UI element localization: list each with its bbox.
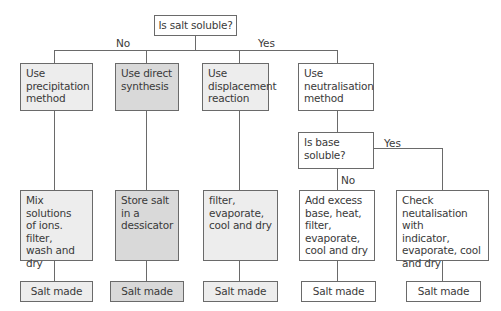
result-label: Salt made xyxy=(23,285,90,298)
no-branch-label: No xyxy=(116,37,130,49)
soluble-base-steps-box: Check neutalisation with indicator, evap… xyxy=(396,190,489,261)
result-label: Salt made xyxy=(409,285,478,298)
connector xyxy=(146,50,147,63)
connector xyxy=(195,36,196,50)
connector xyxy=(239,50,240,63)
connector xyxy=(337,261,338,281)
salt-made-box: Salt made xyxy=(110,281,184,302)
direct-synthesis-steps-box: Store salt in a dessicator xyxy=(115,190,179,261)
method-label: Use neutralisation method xyxy=(304,67,368,105)
result-label: Salt made xyxy=(206,285,275,298)
yes-branch-label: Yes xyxy=(258,37,275,49)
connector xyxy=(442,148,443,190)
steps-label: Mix solutions of ions. filter, wash and … xyxy=(26,194,87,269)
salt-made-box: Salt made xyxy=(406,281,481,302)
connector xyxy=(337,111,338,132)
no-branch-label: No xyxy=(341,174,355,186)
steps-label: Check neutalisation with indicator, evap… xyxy=(402,194,483,269)
connector xyxy=(337,50,338,63)
connector xyxy=(239,111,240,190)
precipitation-steps-box: Mix solutions of ions. filter, wash and … xyxy=(20,190,93,261)
decision-label: Is base soluble? xyxy=(304,136,368,161)
precipitation-method-box: Use precipitation method xyxy=(20,63,93,111)
neutralisation-method-box: Use neutralisation method xyxy=(298,63,374,111)
connector xyxy=(54,50,338,51)
base-soluble-decision-box: Is base soluble? xyxy=(298,132,374,169)
direct-synthesis-method-box: Use direct synthesis xyxy=(115,63,179,111)
connector xyxy=(146,111,147,190)
displacement-method-box: Use displacement reaction xyxy=(202,63,269,111)
result-label: Salt made xyxy=(113,285,181,298)
root-question: Is salt soluble? xyxy=(157,19,234,32)
salt-made-box: Salt made xyxy=(203,281,278,302)
method-label: Use precipitation method xyxy=(26,67,87,105)
insoluble-base-steps-box: Add excess base, heat, filter, evaporate… xyxy=(299,190,375,261)
salt-made-box: Salt made xyxy=(301,281,376,302)
displacement-steps-box: filter, evaporate, cool and dry xyxy=(203,190,278,261)
method-label: Use displacement reaction xyxy=(208,67,263,105)
result-label: Salt made xyxy=(304,285,373,298)
steps-label: Add excess base, heat, filter, evaporate… xyxy=(305,194,369,257)
root-decision-box: Is salt soluble? xyxy=(154,15,237,36)
steps-label: filter, evaporate, cool and dry xyxy=(209,194,272,232)
salt-made-box: Salt made xyxy=(20,281,93,302)
connector xyxy=(146,261,147,281)
method-label: Use direct synthesis xyxy=(121,67,173,92)
connector xyxy=(239,261,240,281)
yes-branch-label: Yes xyxy=(384,137,401,149)
connector xyxy=(442,261,443,281)
connector xyxy=(54,261,55,281)
connector xyxy=(54,50,55,63)
connector xyxy=(54,111,55,190)
steps-label: Store salt in a dessicator xyxy=(121,194,173,232)
connector xyxy=(337,169,338,190)
